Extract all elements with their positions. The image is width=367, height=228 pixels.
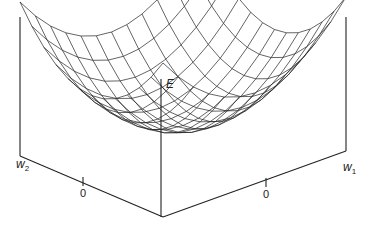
w2-axis-label: w2 [16, 158, 29, 173]
w2-label-subscript: 2 [25, 164, 29, 173]
w1-label-subscript: 1 [352, 167, 356, 176]
paraboloid-mesh [20, 0, 346, 133]
w2-zero-tick-label: 0 [80, 188, 86, 199]
w2-axis [20, 156, 163, 217]
axes-frame [20, 17, 346, 217]
e-axis-label-text: E [166, 77, 174, 91]
w1-label-text: w [343, 160, 352, 174]
w1-axis [163, 151, 346, 217]
w1-zero-tick-label: 0 [263, 189, 269, 200]
w1-axis-label: w1 [343, 161, 356, 176]
e-axis-label: E [166, 78, 174, 90]
w2-label-text: w [16, 157, 25, 171]
error-surface-figure [0, 0, 367, 228]
